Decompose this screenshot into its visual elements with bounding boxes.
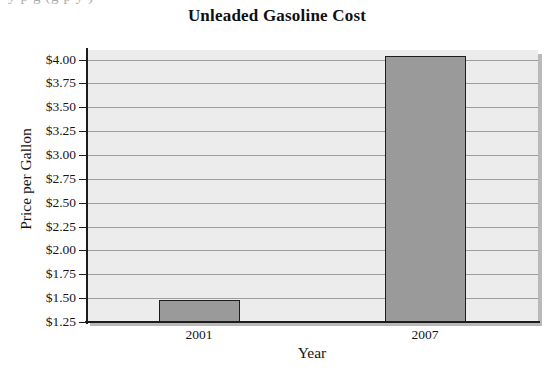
clipped-text-fragment: y p g (g p y ) — [8, 0, 94, 5]
plot-area — [86, 50, 538, 322]
y-axis-tick — [79, 155, 87, 156]
x-axis-category-label: 2001 — [159, 327, 239, 343]
gridline — [86, 274, 538, 275]
y-axis-tick — [79, 322, 87, 323]
gridline — [86, 298, 538, 299]
x-axis-line — [85, 321, 540, 323]
y-axis-tick — [79, 298, 87, 299]
gridline — [86, 227, 538, 228]
y-axis-line — [86, 48, 88, 324]
y-axis-tick — [79, 83, 87, 84]
y-axis-tick-label: $4.00 — [14, 52, 76, 68]
y-axis-tick — [79, 274, 87, 275]
bar — [385, 56, 466, 322]
y-axis-tick-label: $1.75 — [14, 266, 76, 282]
y-axis-tick — [79, 107, 87, 108]
y-axis-tick — [79, 131, 87, 132]
gridline — [86, 250, 538, 251]
y-axis-tick — [79, 60, 87, 61]
gridline — [86, 107, 538, 108]
y-axis-tick-label: $1.25 — [14, 314, 76, 330]
gridline — [86, 83, 538, 84]
y-axis-tick-label: $3.75 — [14, 75, 76, 91]
y-axis-tick — [79, 227, 87, 228]
y-axis-title: Price per Gallon — [17, 104, 35, 254]
y-axis-tick — [79, 203, 87, 204]
x-axis-category-label: 2007 — [385, 327, 465, 343]
chart-title: Unleaded Gasoline Cost — [0, 6, 554, 26]
gridline — [86, 203, 538, 204]
gridline — [86, 131, 538, 132]
bar — [159, 300, 240, 322]
plot-wrapper — [86, 50, 538, 322]
gridline — [86, 155, 538, 156]
y-axis-tick — [79, 179, 87, 180]
gridline — [86, 60, 538, 61]
x-axis-title: Year — [86, 344, 538, 362]
y-axis-tick — [79, 250, 87, 251]
y-axis-tick-label: $1.50 — [14, 290, 76, 306]
gridline — [86, 179, 538, 180]
